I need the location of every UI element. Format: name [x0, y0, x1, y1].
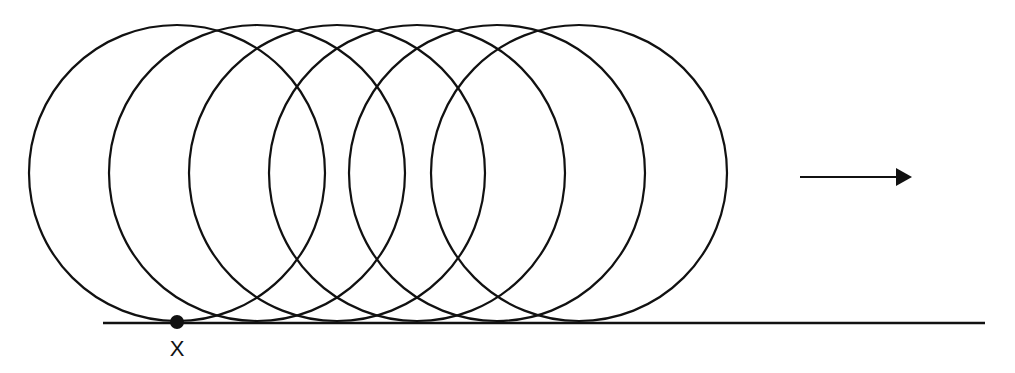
- arrow-head: [896, 168, 912, 186]
- point-x-label: X: [170, 338, 185, 360]
- circles-group: [29, 25, 727, 321]
- diagram-stage: X: [0, 0, 1015, 373]
- circle-position-5: [349, 25, 645, 321]
- direction-arrow-icon: [800, 168, 912, 186]
- circle-position-4: [269, 25, 565, 321]
- circle-position-2: [109, 25, 405, 321]
- rolling-circles-diagram: [0, 0, 1015, 373]
- circle-position-6: [431, 25, 727, 321]
- circle-position-1: [29, 25, 325, 321]
- circle-position-3: [189, 25, 485, 321]
- point-x-marker: [170, 315, 184, 329]
